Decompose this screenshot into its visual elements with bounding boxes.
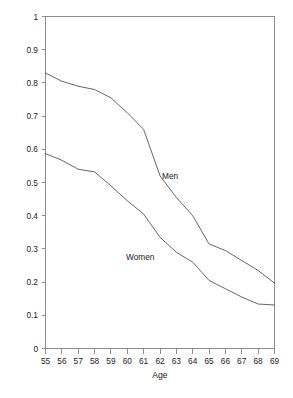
y-axis-tick-labels: 1 0.9 0.8 0.7 0.6 0.5 0.4 0.3 0.2 0.1 0 [26,12,38,354]
x-axis-tick-labels: 55 56 57 58 59 60 61 62 63 64 65 66 67 6… [41,356,280,366]
y-axis-ticks [42,17,46,349]
y-tick-label: 0 [33,344,38,354]
x-tick-label: 55 [41,356,51,366]
frame-border [46,17,275,349]
x-tick-label: 61 [139,356,149,366]
y-tick-label: 0.5 [26,178,38,188]
x-tick-label: 57 [74,356,84,366]
y-tick-label: 1 [33,12,38,22]
x-axis-ticks [46,349,275,354]
x-tick-label: 69 [270,356,280,366]
x-tick-label: 65 [204,356,214,366]
y-tick-label: 0.8 [26,78,38,88]
x-tick-label: 67 [237,356,247,366]
x-tick-label: 56 [57,356,67,366]
line-chart-svg: 1 0.9 0.8 0.7 0.6 0.5 0.4 0.3 0.2 0.1 0 [0,0,293,398]
x-tick-label: 68 [253,356,263,366]
x-axis-title: Age [152,370,168,380]
x-tick-label: 64 [188,356,198,366]
y-tick-label: 0.6 [26,144,38,154]
x-tick-label: 62 [155,356,165,366]
x-tick-label: 58 [90,356,100,366]
y-tick-label: 0.3 [26,244,38,254]
chart-figure: 1 0.9 0.8 0.7 0.6 0.5 0.4 0.3 0.2 0.1 0 [0,0,293,398]
y-tick-label: 0.7 [26,111,38,121]
series-line-men [46,73,275,283]
series-label-men: Men [162,171,179,181]
x-tick-label: 60 [123,356,133,366]
y-tick-label: 0.2 [26,277,38,287]
y-tick-label: 0.9 [26,45,38,55]
x-tick-label: 59 [106,356,116,366]
y-tick-label: 0.4 [26,211,38,221]
x-tick-label: 66 [221,356,231,366]
x-tick-label: 63 [172,356,182,366]
series-label-women: Women [126,252,155,262]
plot-frame [46,17,275,349]
y-tick-label: 0.1 [26,310,38,320]
